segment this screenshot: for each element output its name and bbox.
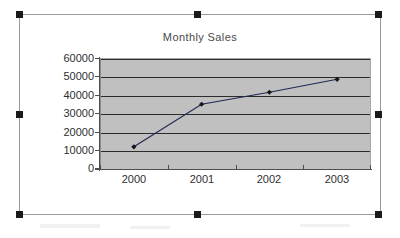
paper-artifact	[130, 226, 170, 229]
paper-artifact	[40, 224, 100, 228]
paper-artifact	[300, 224, 350, 227]
y-axis-label-60000: 60000	[63, 53, 94, 64]
chart-title[interactable]: Monthly Sales	[20, 31, 380, 43]
chart-object[interactable]: Monthly Sales 60000 50000 40000 30000 20…	[19, 14, 381, 215]
data-series-sales[interactable]	[100, 58, 371, 169]
series-line[interactable]	[134, 79, 337, 147]
y-axis-label-40000: 40000	[63, 90, 94, 101]
x-axis-label-2002: 2002	[239, 173, 299, 185]
series-markers[interactable]	[131, 77, 339, 150]
x-axis-label-2000: 2000	[104, 173, 164, 185]
resize-handle-top-left[interactable]	[16, 11, 23, 18]
resize-handle-bottom-left[interactable]	[16, 211, 23, 218]
resize-handle-bottom-middle[interactable]	[194, 211, 201, 218]
data-point-2002[interactable]	[267, 90, 272, 95]
y-axis-label-20000: 20000	[63, 127, 94, 138]
resize-handle-middle-left[interactable]	[16, 111, 23, 118]
category-axis-line[interactable]	[95, 169, 372, 170]
resize-handle-middle-right[interactable]	[375, 111, 382, 118]
x-axis-label-2003: 2003	[307, 173, 367, 185]
y-axis-label-10000: 10000	[63, 145, 94, 156]
resize-handle-top-right[interactable]	[375, 11, 382, 18]
y-axis-label-50000: 50000	[63, 71, 94, 82]
resize-handle-top-middle[interactable]	[194, 11, 201, 18]
y-axis-label-30000: 30000	[63, 108, 94, 119]
y-axis-label-0: 0	[88, 163, 94, 174]
x-axis-label-2001: 2001	[172, 173, 232, 185]
data-point-2003[interactable]	[335, 77, 340, 82]
resize-handle-bottom-right[interactable]	[375, 211, 382, 218]
